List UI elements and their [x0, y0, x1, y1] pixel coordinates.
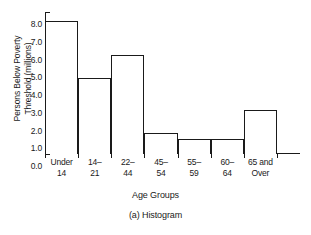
- y-axis-tick-label: 3.0: [31, 108, 42, 118]
- y-axis-tick-label: 1.0: [31, 143, 42, 153]
- figure-caption: (a) Histogram: [0, 210, 311, 220]
- histogram-bar: [144, 133, 177, 154]
- y-axis-tick: [46, 12, 50, 13]
- histogram-bar: [111, 55, 144, 154]
- x-axis-title: Age Groups: [0, 190, 311, 200]
- x-axis-category-label-line: 54: [144, 168, 177, 179]
- x-axis-category-label-line: 59: [178, 168, 211, 179]
- x-axis-category-label: 65 andOver: [244, 157, 277, 179]
- x-axis-category-label-line: 21: [78, 168, 111, 179]
- x-axis-category-label-line: 44: [111, 168, 144, 179]
- x-axis-category-labels: Under1414–2122–4445–5455–5960–6465 andOv…: [45, 157, 300, 183]
- plot-area: [45, 12, 300, 154]
- histogram-bar: [45, 21, 78, 154]
- x-axis-category-label-line: 45–: [144, 157, 177, 168]
- x-axis-category-label: 22–44: [111, 157, 144, 179]
- histogram-bar: [244, 110, 277, 154]
- histogram-bar: [178, 139, 211, 154]
- x-axis-category-label-line: 60–: [211, 157, 244, 168]
- y-axis-tick-label: 7.0: [31, 37, 42, 47]
- y-axis-tick-label: 6.0: [31, 55, 42, 65]
- x-axis-category-label-line: 65 and: [244, 157, 277, 168]
- x-axis-category-label: 55–59: [178, 157, 211, 179]
- x-axis-category-label-line: 14: [45, 168, 78, 179]
- histogram-figure: Persons Below Poverty Threshold (million…: [0, 0, 311, 235]
- y-axis-tick-labels: 0.01.02.03.04.05.06.07.08.0: [18, 12, 42, 154]
- x-axis-category-label-line: 55–: [178, 157, 211, 168]
- x-axis-category-label: 14–21: [78, 157, 111, 179]
- x-axis-category-label: Under14: [45, 157, 78, 179]
- histogram-bar: [78, 78, 111, 154]
- y-axis-tick-label: 2.0: [31, 126, 42, 136]
- x-axis-category-label-line: Under: [45, 157, 78, 168]
- x-axis-category-label-line: 22–: [111, 157, 144, 168]
- x-axis-category-label: 45–54: [144, 157, 177, 179]
- y-axis-tick-label: 8.0: [31, 19, 42, 29]
- x-axis-category-label-line: Over: [244, 168, 277, 179]
- y-axis-tick-label: 4.0: [31, 90, 42, 100]
- x-axis-category-label-line: 14–: [78, 157, 111, 168]
- x-axis-category-label: 60–64: [211, 157, 244, 179]
- y-axis-tick-label: 5.0: [31, 72, 42, 82]
- histogram-bar: [211, 139, 244, 154]
- y-axis-tick-label: 0.0: [31, 161, 42, 171]
- x-axis-category-label-line: 64: [211, 168, 244, 179]
